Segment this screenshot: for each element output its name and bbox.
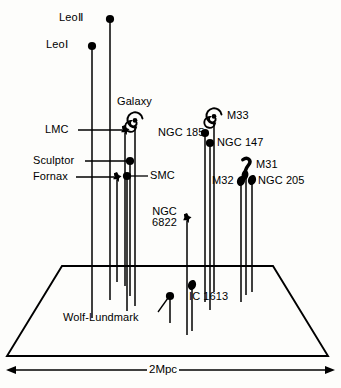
WolfLundmark-leader-line: [158, 298, 168, 312]
label-m31: M31: [256, 159, 278, 171]
label-m33: M33: [227, 110, 249, 122]
SMC-dot-icon: [123, 172, 131, 180]
scale-bar-arrow-left-icon: [6, 366, 16, 374]
scale-bar-label: 2Mpc: [147, 363, 179, 375]
Sculptor-marker-icon: [126, 157, 134, 165]
LMC-marker-icon: [121, 125, 129, 135]
Fornax-marker-icon: [113, 172, 121, 182]
label-m32: M32: [212, 175, 234, 187]
Fornax-irregular-icon: [113, 172, 121, 182]
NGC147-marker-icon: [206, 139, 214, 147]
SMC-marker-icon: [123, 172, 131, 180]
ground-plane: [7, 266, 328, 356]
local-group-figure: LeoⅡLeoⅠGalaxyLMCSculptorFornaxSMCNGC 18…: [0, 0, 341, 388]
label-wolflundmark: Wolf-Lundmark: [63, 312, 139, 324]
label-leoi: LeoⅠ: [46, 39, 68, 51]
LeoI-dot-icon: [88, 42, 96, 50]
Sculptor-dot-icon: [126, 157, 134, 165]
label-galaxy: Galaxy: [117, 96, 152, 108]
plane-trapezoid: [7, 266, 328, 356]
NGC6822-irregular-icon: [183, 213, 191, 223]
label-sculptor: Sculptor: [33, 155, 74, 167]
label-fornax: Fornax: [33, 171, 68, 183]
diagram-canvas: [0, 0, 341, 388]
Galaxy-spiral-core-icon: [133, 118, 138, 123]
label-ngc6822: NGC 6822: [152, 206, 177, 228]
M33-spiral-core-icon: [212, 114, 217, 119]
label-ngc205: NGC 205: [258, 175, 305, 187]
WolfLundmark-dot-icon: [166, 292, 174, 300]
label-ngc147: NGC 147: [217, 137, 264, 149]
label-ngc185: NGC 185: [158, 127, 205, 139]
WolfLundmark-marker-icon: [166, 292, 174, 300]
NGC6822-marker-icon: [183, 213, 191, 223]
LeoII-marker-icon: [106, 15, 114, 23]
label-smc: SMC: [150, 170, 175, 182]
LeoII-dot-icon: [106, 15, 114, 23]
label-leoii: LeoⅡ: [59, 12, 83, 24]
galaxy-markers: [88, 15, 258, 300]
M33-marker-icon: [204, 108, 221, 128]
LMC-irregular-icon: [121, 125, 129, 135]
LeoI-marker-icon: [88, 42, 96, 50]
label-ic1613: IC 1613: [189, 291, 228, 303]
label-lmc: LMC: [45, 124, 69, 136]
NGC147-dot-icon: [206, 139, 214, 147]
scale-bar-arrow-right-icon: [325, 366, 335, 374]
